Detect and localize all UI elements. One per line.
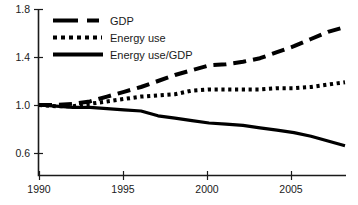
y-tick-label-1: 1.8 (15, 3, 30, 15)
series-line-gdp (39, 27, 345, 105)
y-tick-label-2: 1.4 (15, 51, 30, 63)
x-tick-label-1995: 1995 (111, 183, 135, 195)
legend-label-energy-use-gdp: Energy use/GDP (110, 49, 193, 61)
legend-label-gdp: GDP (110, 15, 134, 27)
x-tick-label-2000: 2000 (195, 183, 219, 195)
line-chart-canvas: 1.8 1.4 1.0 0.6 1990 1995 2000 2005 GDP … (0, 0, 358, 205)
chart-legend: GDP Energy use Energy use/GDP (53, 15, 193, 61)
x-tick-label-1990: 1990 (27, 183, 51, 195)
chart-figure: 1.8 1.4 1.0 0.6 1990 1995 2000 2005 GDP … (0, 0, 358, 205)
chart-axes (39, 9, 347, 176)
y-tick-label-3: 1.0 (15, 99, 30, 111)
x-tick-label-2005: 2005 (279, 183, 303, 195)
series-line-energy-use-per-gdp (39, 105, 345, 146)
legend-label-energy-use: Energy use (110, 32, 166, 44)
y-tick-label-4: 0.6 (15, 147, 30, 159)
